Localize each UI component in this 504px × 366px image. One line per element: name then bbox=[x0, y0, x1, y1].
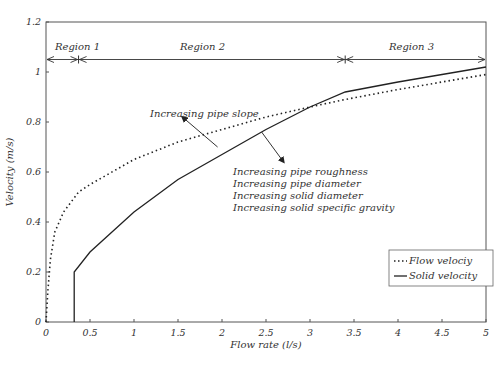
y-tick-label: 1 bbox=[35, 66, 41, 77]
x-tick-label: 2 bbox=[218, 327, 225, 338]
x-axis-title: Flow rate (l/s) bbox=[229, 339, 301, 350]
y-axis-title: Velocity (m/s) bbox=[4, 137, 15, 206]
region-3-label: Region 3 bbox=[388, 41, 434, 52]
region-1-label: Region 1 bbox=[54, 41, 100, 52]
legend-flow-label: Flow velociy bbox=[408, 255, 472, 266]
y-tick-label: 0.2 bbox=[26, 266, 41, 277]
roughness-arrow bbox=[262, 132, 284, 162]
x-tick-label: 1 bbox=[131, 327, 137, 338]
velocity-flowrate-chart: 00.20.40.60.811.2 00.511.522.533.544.55 … bbox=[0, 0, 504, 366]
region-2-label: Region 2 bbox=[179, 41, 225, 52]
annotation-pipe-slope: Increasing pipe slope bbox=[149, 108, 259, 119]
x-tick-label: 0.5 bbox=[82, 327, 97, 338]
x-tick-label: 3.5 bbox=[346, 327, 361, 338]
legend-solid-label: Solid velocity bbox=[409, 270, 477, 281]
x-tick-label: 3 bbox=[307, 327, 313, 338]
y-tick-label: 0 bbox=[35, 316, 41, 327]
y-tick-label: 0.8 bbox=[26, 116, 41, 127]
legend: Flow velociy Solid velocity bbox=[389, 250, 493, 286]
y-tick-label: 0.6 bbox=[26, 166, 41, 177]
annotation-solid-gravity: Increasing solid specific gravity bbox=[232, 202, 395, 213]
region-markers bbox=[47, 56, 485, 64]
annotation-solid-diameter: Increasing solid diameter bbox=[232, 190, 364, 201]
y-tick-label: 0.4 bbox=[26, 216, 41, 227]
annotation-pipe-diameter: Increasing pipe diameter bbox=[232, 178, 362, 189]
y-tick-label: 1.2 bbox=[26, 16, 41, 27]
x-tick-label: 0 bbox=[43, 327, 49, 338]
x-tick-label: 4 bbox=[394, 327, 401, 338]
x-tick-label: 5 bbox=[483, 327, 489, 338]
x-tick-label: 1.5 bbox=[170, 327, 185, 338]
x-tick-label: 4.5 bbox=[433, 327, 449, 338]
annotation-pipe-roughness: Increasing pipe roughness bbox=[232, 166, 368, 177]
x-tick-label: 2.5 bbox=[257, 327, 273, 338]
